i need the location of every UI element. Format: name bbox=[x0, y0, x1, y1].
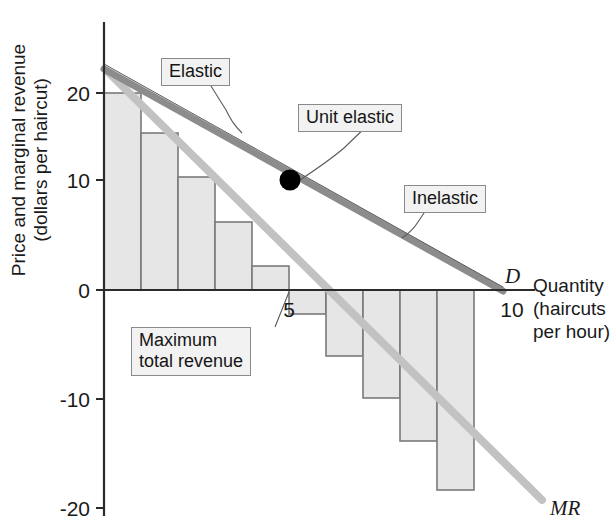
y-tick-label-20: 20 bbox=[67, 82, 90, 105]
chart-canvas: 20 10 0 -10 -20 5 10 Price and marginal … bbox=[0, 0, 615, 530]
x-axis-title-line1: Quantity bbox=[533, 275, 604, 296]
callout-maxrev-line2: total revenue bbox=[139, 351, 243, 372]
unit-elastic-marker bbox=[280, 170, 301, 191]
callout-maxrev-line1: Maximum bbox=[139, 330, 243, 351]
callout-unit-elastic-label: Unit elastic bbox=[306, 107, 394, 127]
y-axis-title-line2: (dollars per haircut) bbox=[30, 78, 51, 242]
bar-q5 bbox=[252, 266, 289, 290]
bar-q2 bbox=[141, 133, 178, 290]
bar-q4 bbox=[215, 222, 252, 290]
callout-elastic: Elastic bbox=[161, 58, 230, 86]
callout-unit-elastic: Unit elastic bbox=[298, 104, 402, 132]
y-tick-label-0: 0 bbox=[78, 279, 90, 302]
mr-curve-label: MR bbox=[549, 496, 580, 520]
x-axis-title-line2: (haircuts bbox=[533, 298, 606, 319]
bar-q1 bbox=[104, 93, 141, 290]
y-tick-label-neg20: -20 bbox=[60, 497, 90, 520]
elasticity-chart: 20 10 0 -10 -20 5 10 Price and marginal … bbox=[0, 0, 615, 530]
x-tick-label-10: 10 bbox=[500, 298, 523, 321]
y-axis-title-line1: Price and marginal revenue bbox=[8, 44, 29, 276]
bar-q3 bbox=[178, 177, 215, 290]
callout-inelastic-label: Inelastic bbox=[412, 188, 478, 208]
callout-inelastic: Inelastic bbox=[404, 185, 486, 213]
x-axis-title-line3: per hour) bbox=[533, 321, 610, 342]
bar-group-negative bbox=[289, 290, 474, 490]
y-tick-label-10: 10 bbox=[67, 169, 90, 192]
y-tick-marks bbox=[96, 93, 104, 508]
callout-elastic-label: Elastic bbox=[169, 61, 222, 81]
bar-q10 bbox=[437, 290, 474, 490]
y-tick-label-neg10: -10 bbox=[60, 388, 90, 411]
demand-curve-label: D bbox=[504, 264, 520, 288]
callout-max-total-revenue: Maximum total revenue bbox=[131, 327, 251, 376]
